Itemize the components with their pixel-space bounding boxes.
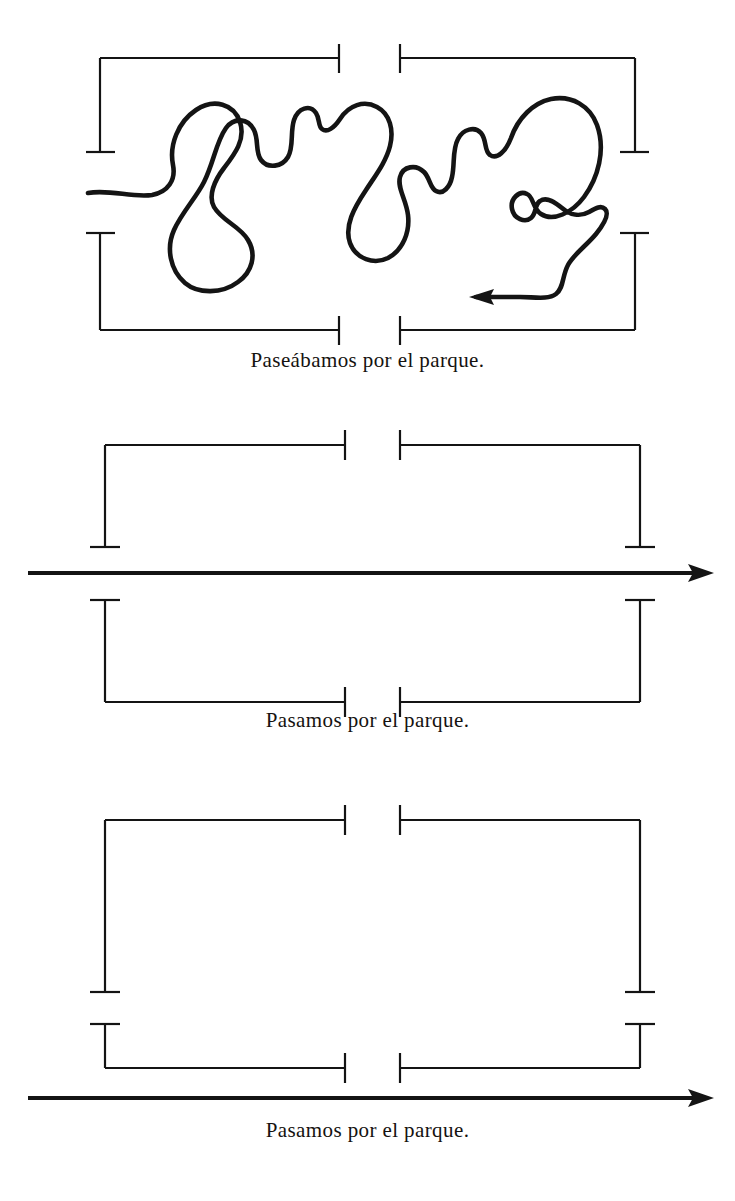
panel-1-caption: Paseábamos por el parque. — [0, 348, 735, 373]
panel-3-lower-bracket-group — [90, 1024, 655, 1083]
panel-2-lower-bracket-group — [90, 600, 655, 717]
panel-2-caption: Pasamos por el parque. — [0, 708, 735, 733]
panel-1-scribble-group — [88, 98, 607, 305]
panel-3-upper-bracket-group — [90, 805, 655, 992]
wandering-path-scribble — [88, 98, 607, 298]
panel-1-bracket-group — [86, 44, 649, 345]
figure-page: Paseábamos por el parque. Pasamos por el… — [0, 0, 735, 1201]
panel-3-caption: Pasamos por el parque. — [0, 1118, 735, 1143]
panel-2-upper-bracket-group — [90, 430, 655, 547]
timeline-2-group — [28, 1089, 714, 1107]
aspect-diagram-svg — [0, 0, 735, 1201]
timeline-1-group — [28, 564, 714, 582]
